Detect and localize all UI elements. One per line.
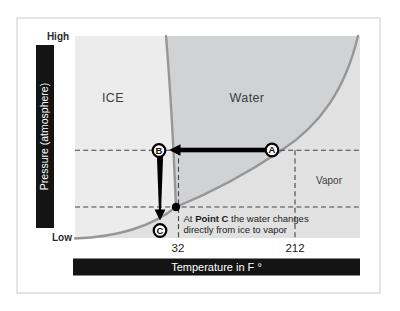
annotation-line-2: directly from ice to vapor — [184, 224, 287, 235]
annotation-line1-pre: At — [184, 213, 196, 224]
point-b-label: B — [156, 145, 163, 156]
x-tick-32: 32 — [172, 242, 185, 254]
triple-point-dot — [172, 203, 180, 211]
point-a-marker: A — [266, 144, 279, 157]
y-axis-title: Pressure (atmosphere) — [38, 83, 50, 190]
annotation-line1-post: the water changes — [228, 213, 309, 224]
region-label-vapor: Vapor — [316, 175, 343, 186]
x-tick-212: 212 — [285, 242, 304, 254]
arrow-a-to-b-shaft — [179, 148, 268, 153]
point-c-marker: C — [154, 224, 167, 237]
point-a-label: A — [269, 144, 276, 155]
annotation-line1-bold: Point C — [195, 213, 228, 224]
region-label-ice: ICE — [102, 91, 124, 105]
y-axis-low-label: Low — [52, 232, 72, 243]
phase-diagram-svg: A B C ICE Water Vapor At Point C the wat… — [0, 0, 400, 311]
y-axis-high-label: High — [47, 31, 69, 42]
point-c-label: C — [157, 225, 164, 236]
point-b-marker: B — [153, 144, 166, 157]
phase-diagram-figure: A B C ICE Water Vapor At Point C the wat… — [0, 0, 400, 311]
region-label-water: Water — [230, 91, 265, 105]
annotation-line-1: At Point C the water changes — [184, 213, 309, 224]
x-axis-title: Temperature in F ° — [171, 261, 262, 273]
